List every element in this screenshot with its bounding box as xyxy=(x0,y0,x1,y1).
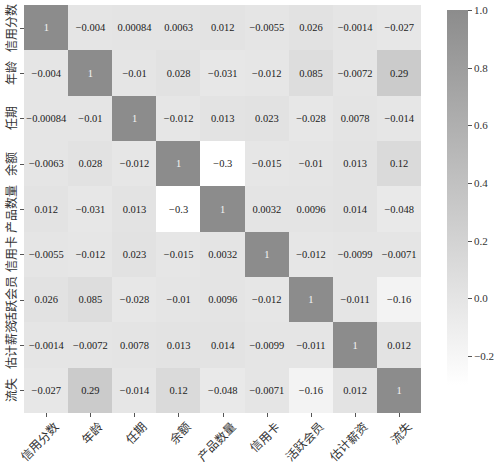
colorbar-tick-label: 1.0 xyxy=(474,4,488,16)
heatmap-cell: 1 xyxy=(377,368,422,414)
heatmap-cell: 0.014 xyxy=(333,186,378,232)
heatmap-cell: 0.085 xyxy=(289,50,334,96)
x-tick-label: 任期 xyxy=(121,418,151,448)
heatmap-cell: −0.0072 xyxy=(333,50,378,96)
y-tick-label: 信用卡 xyxy=(0,232,22,277)
colorbar-tick xyxy=(468,241,472,242)
heatmap-cell: 0.028 xyxy=(68,141,113,187)
x-tick xyxy=(178,413,179,417)
y-tick-label: 产品数量 xyxy=(0,186,22,231)
heatmap-cell: 0.013 xyxy=(156,322,201,368)
heatmap-cell: 0.0078 xyxy=(333,96,378,142)
heatmap-cell: 0.012 xyxy=(333,368,378,414)
heatmap-cell: −0.3 xyxy=(200,141,245,187)
y-tick-label-text: 产品数量 xyxy=(2,185,20,233)
heatmap-cell: 0.12 xyxy=(156,368,201,414)
y-tick xyxy=(20,254,24,255)
heatmap-cell: −0.011 xyxy=(333,277,378,323)
heatmap-cell: −0.0099 xyxy=(245,322,290,368)
colorbar-tick-label: 0.6 xyxy=(474,119,488,131)
heatmap-cell: −0.00084 xyxy=(24,96,69,142)
heatmap-cell: 1 xyxy=(245,232,290,278)
heatmap-cell: −0.028 xyxy=(112,277,157,323)
heatmap-cell: 1 xyxy=(333,322,378,368)
x-tick-label: 流失 xyxy=(386,418,416,448)
heatmap-cell: 0.12 xyxy=(377,141,422,187)
heatmap-cell: 1 xyxy=(112,96,157,142)
heatmap-cell: −0.01 xyxy=(156,277,201,323)
heatmap-cell: −0.0099 xyxy=(333,232,378,278)
x-tick-label: 信用分数 xyxy=(16,418,63,465)
heatmap-cell: 1 xyxy=(156,141,201,187)
heatmap-cell: −0.012 xyxy=(112,141,157,187)
x-tick-label: 产品数量 xyxy=(193,418,240,465)
x-tick xyxy=(311,413,312,417)
colorbar-tick xyxy=(468,10,472,11)
heatmap-cell: −0.048 xyxy=(200,368,245,414)
heatmap-cell: −0.014 xyxy=(112,368,157,414)
heatmap-cell: −0.012 xyxy=(289,232,334,278)
heatmap-cell: −0.0063 xyxy=(24,141,69,187)
colorbar-tick-label: 0.0 xyxy=(474,292,488,304)
y-tick-label: 活跃会员 xyxy=(0,277,22,322)
x-tick xyxy=(223,413,224,417)
heatmap-cell: −0.012 xyxy=(245,277,290,323)
heatmap-cell: −0.0055 xyxy=(245,5,290,51)
y-tick xyxy=(20,118,24,119)
colorbar xyxy=(447,10,468,385)
heatmap-cell: −0.012 xyxy=(68,232,113,278)
x-tick-label: 活跃会员 xyxy=(281,418,328,465)
y-tick xyxy=(20,28,24,29)
heatmap-cell: 0.012 xyxy=(24,186,69,232)
heatmap-cell: −0.01 xyxy=(112,50,157,96)
heatmap-cell: 0.028 xyxy=(156,50,201,96)
heatmap-cell: 0.085 xyxy=(68,277,113,323)
heatmap-cell: −0.0071 xyxy=(377,232,422,278)
y-tick-label: 余额 xyxy=(0,141,22,186)
y-tick xyxy=(20,300,24,301)
heatmap-cell: −0.0014 xyxy=(24,322,69,368)
heatmap-cell: 0.0096 xyxy=(200,277,245,323)
heatmap-cell: −0.015 xyxy=(245,141,290,187)
heatmap-cell: 0.014 xyxy=(200,322,245,368)
y-tick-label-text: 余额 xyxy=(2,152,20,176)
x-tick xyxy=(134,413,135,417)
y-tick-label-text: 任期 xyxy=(2,106,20,130)
colorbar-tick-label: 0.4 xyxy=(474,177,488,189)
colorbar-tick xyxy=(468,183,472,184)
heatmap-cell: −0.004 xyxy=(68,5,113,51)
heatmap-cell: −0.015 xyxy=(156,232,201,278)
x-tick xyxy=(355,413,356,417)
heatmap-cell: −0.031 xyxy=(68,186,113,232)
heatmap-cell: 0.0063 xyxy=(156,5,201,51)
heatmap-cell: 0.013 xyxy=(112,186,157,232)
heatmap-cell: −0.031 xyxy=(200,50,245,96)
heatmap-cell: 1 xyxy=(289,277,334,323)
y-tick-label: 信用分数 xyxy=(0,5,22,50)
colorbar-tick xyxy=(468,298,472,299)
x-tick xyxy=(399,413,400,417)
heatmap-cell: 0.00084 xyxy=(112,5,157,51)
x-tick xyxy=(46,413,47,417)
heatmap-cell: 0.0078 xyxy=(112,322,157,368)
y-tick-label: 流失 xyxy=(0,368,22,413)
y-tick-label-text: 估计薪资 xyxy=(2,321,20,369)
heatmap-cell: 0.29 xyxy=(68,368,113,414)
heatmap-cell: −0.16 xyxy=(289,368,334,414)
heatmap-cell: −0.0072 xyxy=(68,322,113,368)
heatmap-cell: 0.012 xyxy=(200,5,245,51)
heatmap-cell: −0.01 xyxy=(289,141,334,187)
heatmap-cell: 0.023 xyxy=(112,232,157,278)
x-tick-label: 估计薪资 xyxy=(325,418,372,465)
x-tick xyxy=(267,413,268,417)
heatmap-cell: −0.012 xyxy=(156,96,201,142)
y-tick-label-text: 年龄 xyxy=(2,61,20,85)
heatmap-grid: 1−0.0040.000840.00630.012−0.00550.026−0.… xyxy=(24,5,421,413)
heatmap-cell: 1 xyxy=(24,5,69,51)
y-tick xyxy=(20,390,24,391)
heatmap-cell: −0.014 xyxy=(377,96,422,142)
colorbar-tick-label: 0.2 xyxy=(474,235,488,247)
heatmap-cell: 0.026 xyxy=(24,277,69,323)
y-tick xyxy=(20,164,24,165)
y-tick-label: 任期 xyxy=(0,96,22,141)
